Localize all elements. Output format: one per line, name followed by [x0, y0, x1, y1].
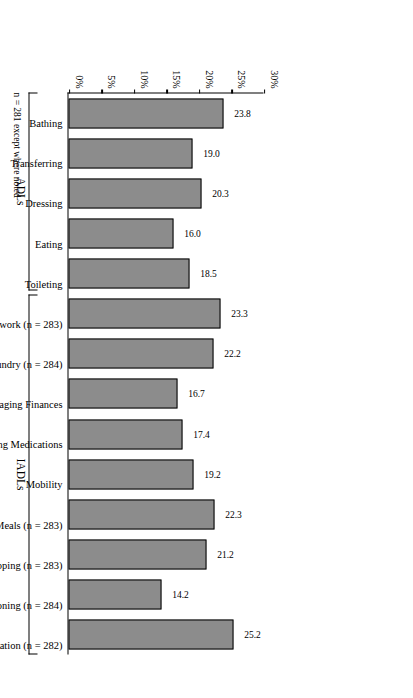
bracket-iadls — [28, 294, 37, 654]
y-tick-1: 5% — [106, 75, 117, 93]
y-tick-6: 30% — [269, 70, 280, 93]
bar — [68, 98, 223, 128]
bar-column: 16.0 — [68, 216, 263, 250]
y-tick-4: 20% — [204, 70, 215, 93]
y-tick-2: 10% — [138, 70, 149, 93]
y-tick-0: 0% — [74, 75, 85, 93]
bar — [68, 298, 220, 328]
bar-value-label: 19.2 — [207, 465, 217, 482]
bar-value-label: 16.7 — [191, 385, 201, 402]
bar — [68, 178, 201, 208]
bar-value-label: 20.3 — [215, 185, 225, 202]
bar-value-label: 14.2 — [175, 585, 185, 602]
chart-area: 0% 5% 10% 15% 20% 25% 30% 23.819.020.316… — [0, 0, 413, 698]
bar-column: 25.2 — [68, 617, 263, 651]
bar-column: 22.2 — [68, 336, 263, 370]
bar — [68, 619, 233, 649]
bar-column: 23.3 — [68, 296, 263, 330]
bar — [68, 419, 182, 449]
bar-value-label: 22.3 — [228, 505, 238, 522]
bar-value-label: 17.4 — [196, 425, 206, 442]
bar-column: 16.7 — [68, 376, 263, 410]
bar-series: 23.819.020.316.018.523.322.216.717.419.2… — [68, 93, 263, 654]
bar — [68, 218, 173, 248]
bar-value-label: 18.5 — [203, 265, 213, 282]
bar-column: 22.3 — [68, 497, 263, 531]
bar-column: 20.3 — [68, 176, 263, 210]
bar-column: 18.5 — [68, 256, 263, 290]
category-label: Eating — [35, 238, 62, 249]
bar-value-label: 16.0 — [187, 225, 197, 242]
chart-page: 0% 5% 10% 15% 20% 25% 30% 23.819.020.316… — [0, 0, 413, 698]
bar-column: 21.2 — [68, 537, 263, 571]
rotated-chart-wrapper: 0% 5% 10% 15% 20% 25% 30% 23.819.020.316… — [0, 0, 413, 698]
bar-value-label: 22.2 — [227, 345, 237, 362]
bracket-adls — [28, 92, 37, 290]
bar-value-label: 23.3 — [234, 305, 244, 322]
bar-column: 14.2 — [68, 577, 263, 611]
bar — [68, 539, 207, 569]
chart-footnote: n = 281 except where noted — [11, 92, 21, 197]
bar — [68, 499, 214, 529]
bar — [68, 338, 213, 368]
bar — [68, 378, 177, 408]
bar-column: 17.4 — [68, 417, 263, 451]
bar-value-label: 21.2 — [221, 545, 231, 562]
bar — [68, 138, 192, 168]
y-tick-5: 25% — [236, 70, 247, 93]
bar — [68, 258, 189, 288]
bar-column: 23.8 — [68, 96, 263, 130]
bar-value-label: 25.2 — [247, 626, 257, 643]
plot-area: 0% 5% 10% 15% 20% 25% 30% 23.819.020.316… — [67, 92, 263, 654]
bracket-label-iadls: IADLs — [14, 458, 26, 490]
bar-value-label: 19.0 — [206, 145, 216, 162]
y-tick-3: 15% — [171, 70, 182, 93]
bar — [68, 459, 193, 489]
bar-column: 19.0 — [68, 136, 263, 170]
bar-column: 19.2 — [68, 457, 263, 491]
bar — [68, 579, 161, 609]
bar-value-label: 23.8 — [237, 105, 247, 122]
